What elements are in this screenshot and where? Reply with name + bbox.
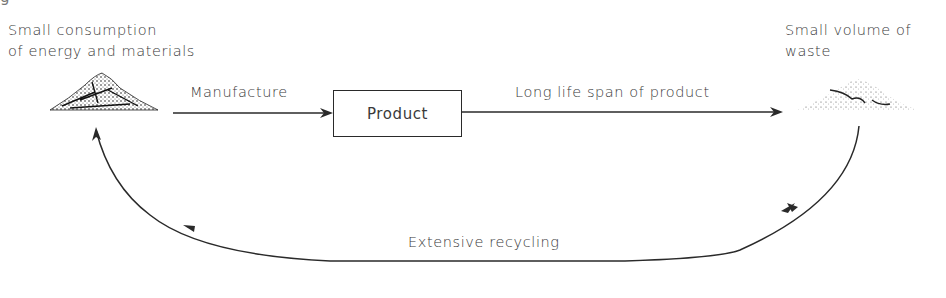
lifespan-arrow xyxy=(462,107,783,117)
waste-label-line1: Small volume of xyxy=(785,20,911,40)
manufacture-label: Manufacture xyxy=(190,82,288,102)
lifespan-label: Long life span of product xyxy=(515,82,710,102)
recycling-label: Extensive recycling xyxy=(408,232,560,252)
product-label: Product xyxy=(367,105,428,123)
material-pile-icon xyxy=(50,73,158,110)
waste-label-line2: waste xyxy=(785,41,831,61)
manufacture-arrow xyxy=(173,108,333,118)
product-box: Product xyxy=(333,90,462,137)
source-label-line2: of energy and materials xyxy=(8,41,195,61)
cut-off-text: g xyxy=(0,0,10,6)
source-label-line1: Small consumption xyxy=(8,20,157,40)
waste-pile-icon xyxy=(795,79,920,111)
